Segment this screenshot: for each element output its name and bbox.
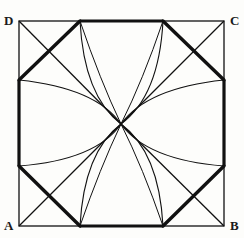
- geometry-figure: D C A B: [0, 0, 244, 238]
- inner-arc-top-left: [80, 21, 121, 124]
- arc-from-top-left: [80, 21, 121, 124]
- corner-label-b: B: [230, 219, 239, 232]
- arc-from-left-lower: [19, 124, 121, 166]
- arc-from-bottom-right: [121, 124, 163, 226]
- arc-from-top-right: [121, 21, 163, 124]
- arc-from-left-upper: [19, 80, 121, 124]
- inner-arc-bottom-right: [121, 124, 163, 226]
- corner-label-a: A: [4, 219, 13, 232]
- inner-arc-bottom-left: [80, 124, 121, 226]
- inner-arc-top-right: [121, 21, 163, 124]
- inner-arcs: [80, 21, 163, 226]
- corner-label-d: D: [4, 14, 13, 27]
- figure-canvas: [0, 0, 244, 238]
- corner-label-c: C: [230, 14, 239, 27]
- arc-from-right-lower: [121, 124, 224, 166]
- arc-from-right-upper: [121, 80, 224, 124]
- arc-from-bottom-left: [80, 124, 121, 226]
